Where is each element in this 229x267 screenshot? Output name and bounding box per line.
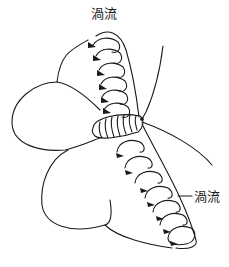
vortex-label-top: 渦流 — [91, 7, 117, 20]
figure-caption-cutoff: ▬▬▬ — [95, 262, 135, 267]
lower-wing-trailing-edge — [142, 124, 196, 249]
lower-vortices — [117, 140, 195, 244]
lower-left-wing-lobe — [42, 150, 111, 229]
left-wing-lobe — [12, 82, 100, 150]
upper-back-wing — [57, 40, 100, 110]
antenna — [142, 46, 163, 119]
upper-vortices — [93, 38, 130, 117]
vortex-label-right: 渦流 — [194, 190, 220, 203]
lower-wing-inner-edge — [105, 225, 172, 248]
wing-vortex-diagram — [0, 0, 229, 267]
